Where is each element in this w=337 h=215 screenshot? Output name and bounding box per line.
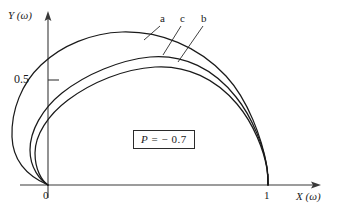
curve-a: [12, 32, 268, 185]
plot-canvas: [0, 0, 337, 215]
curve-label-a: a: [160, 13, 165, 24]
origin-label: 0: [43, 190, 49, 201]
parameter-symbol: P: [141, 133, 148, 145]
y-tick-label-0.5: 0.5: [14, 73, 29, 85]
curve-label-b: b: [201, 13, 207, 24]
curve-label-c: c: [180, 13, 185, 24]
curve-c: [30, 57, 268, 185]
x-tick-label-1: 1: [264, 190, 270, 201]
nyquist-plot-figure: Y (ω) X (ω) 0.5 0 1 a c b P = − 0.7: [0, 0, 337, 215]
x-axis: [20, 182, 321, 189]
parameter-value: = − 0.7: [151, 133, 186, 145]
x-axis-label: X (ω): [296, 191, 321, 202]
y-axis-label: Y (ω): [8, 10, 32, 21]
parameter-annotation-box: P = − 0.7: [133, 130, 195, 149]
leader-line-c: [163, 26, 181, 55]
